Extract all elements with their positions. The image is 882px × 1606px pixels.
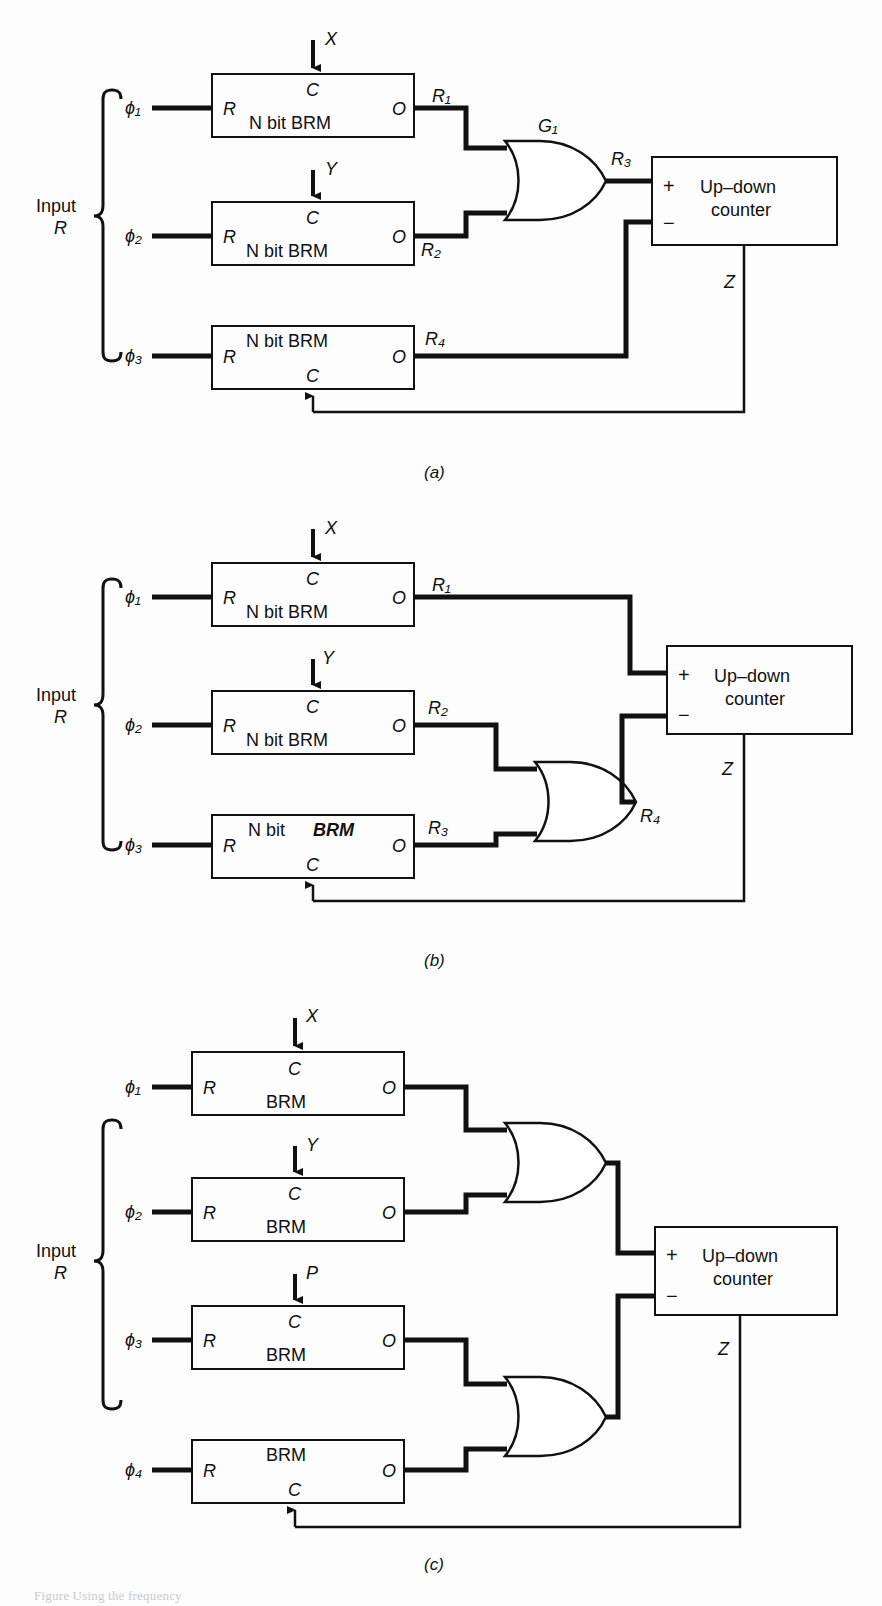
signal-label-b-r4: R₄ [640, 806, 660, 826]
brm-body-a1: N bit BRM [249, 113, 331, 133]
wire-c4-out [404, 1449, 507, 1470]
phase-label-a1: ϕ₁ [125, 98, 141, 118]
port-r-c3: R [203, 1331, 216, 1351]
input-brace-a [94, 90, 121, 361]
port-c-b1: C [306, 569, 320, 589]
brm-body-c1: BRM [266, 1092, 306, 1112]
wire-c2-out [404, 1195, 507, 1212]
port-c-c1: C [288, 1059, 302, 1079]
wire-r4-a [414, 222, 652, 356]
wire-c3-out [404, 1340, 507, 1384]
port-r-b2: R [223, 716, 236, 736]
phase-label-a2: ϕ₂ [125, 226, 142, 246]
port-r-c1: R [203, 1078, 216, 1098]
clock-label-a2: Y [325, 159, 339, 179]
port-r-a1: R [223, 99, 236, 119]
port-c-a1: C [306, 80, 320, 100]
clock-label-c2: Y [306, 1135, 320, 1155]
brm-body-c4: BRM [266, 1445, 306, 1465]
clock-label-b2: Y [322, 648, 336, 668]
block-diagram-svg: Input R ϕ₁ ϕ₂ ϕ₃ R R R O O O C C C N bit… [0, 0, 882, 1606]
counter-title-b1: Up–down [714, 666, 790, 686]
signal-label-a-r4: R₄ [425, 329, 445, 349]
panel-caption-c: (c) [424, 1555, 444, 1574]
phase-label-a3: ϕ₃ [125, 346, 142, 366]
counter-output-a: Z [723, 272, 736, 292]
counter-minus-b: − [678, 704, 690, 726]
port-o-c2: O [382, 1203, 396, 1223]
port-c-c3: C [288, 1312, 302, 1332]
input-label-c-line1: Input [36, 1241, 76, 1261]
counter-plus-b: + [678, 664, 690, 686]
port-r-a3: R [223, 347, 236, 367]
phase-label-c2: ϕ₂ [125, 1202, 142, 1222]
counter-minus-c: − [666, 1285, 678, 1307]
phase-label-c4: ϕ₄ [125, 1460, 142, 1480]
wire-or-bottom-to-minus [606, 1296, 655, 1417]
port-o-c1: O [382, 1078, 396, 1098]
input-label-a-line2: R [54, 218, 67, 238]
phase-label-b1: ϕ₁ [125, 587, 141, 607]
phase-label-b2: ϕ₂ [125, 715, 142, 735]
wire-r1-a [414, 108, 507, 148]
port-r-a2: R [223, 227, 236, 247]
input-label-a-line1: Input [36, 196, 76, 216]
clock-label-b1: X [324, 518, 338, 538]
counter-title-c2: counter [713, 1269, 773, 1289]
port-c-b3: C [306, 855, 320, 875]
input-brace-b [94, 579, 121, 850]
signal-label-a-r2: R₂ [421, 240, 441, 260]
port-o-c3: O [382, 1331, 396, 1351]
signal-label-b-r2: R₂ [428, 698, 448, 718]
panel-a [94, 40, 837, 412]
port-r-c4: R [203, 1461, 216, 1481]
port-r-c2: R [203, 1203, 216, 1223]
phase-label-c3: ϕ₃ [125, 1330, 142, 1350]
brm-body-b2: N bit BRM [246, 730, 328, 750]
clock-label-c1: X [305, 1006, 319, 1026]
counter-minus-a: − [663, 212, 675, 234]
counter-output-c: Z [717, 1339, 730, 1359]
figure-caption-partial: Figure Using the frequency [34, 1588, 854, 1604]
port-o-b3: O [392, 836, 406, 856]
wire-r2-b [414, 725, 537, 769]
clock-label-a1: X [324, 29, 338, 49]
port-o-c4: O [382, 1461, 396, 1481]
port-o-a3: O [392, 347, 406, 367]
port-r-b1: R [223, 588, 236, 608]
counter-title-a1: Up–down [700, 177, 776, 197]
brm-body-c3: BRM [266, 1345, 306, 1365]
signal-label-a-r3: R₃ [611, 149, 631, 169]
brm-body-c2: BRM [266, 1217, 306, 1237]
wire-r1-b [414, 597, 667, 673]
signal-label-b-r3: R₃ [428, 818, 448, 838]
port-r-b3: R [223, 836, 236, 856]
panel-b [94, 529, 852, 901]
port-c-b2: C [306, 697, 320, 717]
figure-root: Input R ϕ₁ ϕ₂ ϕ₃ R R R O O O C C C N bit… [0, 0, 882, 1606]
input-label-b-line1: Input [36, 685, 76, 705]
port-o-a2: O [392, 227, 406, 247]
brm-body-a2: N bit BRM [246, 241, 328, 261]
phase-label-b3: ϕ₃ [125, 835, 142, 855]
counter-output-b: Z [721, 759, 734, 779]
input-label-c-line2: R [54, 1263, 67, 1283]
counter-plus-a: + [663, 175, 675, 197]
input-brace-c [94, 1120, 121, 1409]
brm-body-b3-bold: BRM [313, 820, 355, 840]
brm-body-b3-plain: N bit [248, 820, 285, 840]
wire-z-feedback-b [313, 734, 744, 901]
port-c-a2: C [306, 208, 320, 228]
or-gate-a-g1 [505, 141, 606, 220]
wire-or-top-to-plus [606, 1163, 655, 1253]
counter-title-a2: counter [711, 200, 771, 220]
counter-plus-c: + [666, 1244, 678, 1266]
or-gate-c-top [505, 1123, 606, 1202]
gate-label-a-g1: G₁ [538, 116, 558, 136]
panel-caption-b: (b) [424, 951, 445, 970]
port-o-b2: O [392, 716, 406, 736]
panel-caption-a: (a) [424, 463, 445, 482]
port-c-c2: C [288, 1184, 302, 1204]
port-o-b1: O [392, 588, 406, 608]
port-o-a1: O [392, 99, 406, 119]
